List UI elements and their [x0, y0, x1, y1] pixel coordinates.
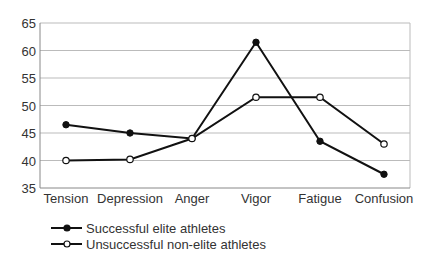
series-line [66, 97, 384, 160]
filled-circle-marker-icon [63, 122, 69, 128]
open-circle-marker-icon [63, 157, 69, 163]
gridlines [40, 23, 410, 161]
legend-label: Successful elite athletes [86, 221, 226, 236]
x-category-label: Fatigue [298, 191, 341, 206]
x-category-label: Tension [44, 191, 89, 206]
y-tick-label: 60 [22, 44, 36, 59]
y-axis-ticks: 35404550556065 [22, 16, 36, 196]
y-tick-label: 55 [22, 71, 36, 86]
series-successful-elite [63, 39, 387, 177]
legend-label: Unsuccessful non-elite athletes [86, 237, 266, 252]
x-axis-categories: TensionDepressionAngerVigorFatigueConfus… [44, 191, 414, 206]
x-category-label: Confusion [355, 191, 414, 206]
filled-circle-marker-icon [381, 171, 387, 177]
y-tick-label: 50 [22, 99, 36, 114]
legend-item: Successful elite athletes [51, 221, 226, 236]
open-circle-marker-icon [317, 94, 323, 100]
data-series [63, 39, 387, 177]
x-category-label: Anger [175, 191, 210, 206]
y-tick-label: 35 [22, 181, 36, 196]
open-circle-marker-icon [64, 241, 70, 247]
x-category-label: Vigor [241, 191, 272, 206]
open-circle-marker-icon [189, 135, 195, 141]
legend: Successful elite athletesUnsuccessful no… [51, 221, 266, 252]
line-chart: 35404550556065 TensionDepressionAngerVig… [0, 0, 432, 261]
filled-circle-marker-icon [64, 225, 70, 231]
open-circle-marker-icon [253, 94, 259, 100]
y-tick-label: 65 [22, 16, 36, 31]
legend-item: Unsuccessful non-elite athletes [51, 237, 266, 252]
y-tick-label: 40 [22, 154, 36, 169]
filled-circle-marker-icon [253, 39, 259, 45]
series-unsuccessful-non-elite [63, 94, 387, 164]
y-tick-label: 45 [22, 126, 36, 141]
filled-circle-marker-icon [317, 138, 323, 144]
x-category-label: Depression [97, 191, 163, 206]
open-circle-marker-icon [127, 156, 133, 162]
open-circle-marker-icon [381, 141, 387, 147]
filled-circle-marker-icon [127, 130, 133, 136]
